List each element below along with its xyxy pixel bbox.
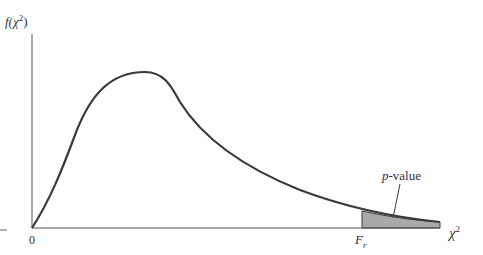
p-value-shaded-region — [362, 211, 440, 228]
p-value-label: p-value — [382, 168, 421, 184]
x-axis-label: χ2 — [449, 224, 460, 242]
y-label-f: f( — [5, 14, 13, 29]
critical-F: F — [355, 232, 363, 247]
x-label-sup: 2 — [456, 224, 461, 234]
y-axis-label: f(χ2) — [5, 13, 28, 30]
origin-label: 0 — [29, 233, 35, 248]
critical-sub: r — [363, 240, 367, 250]
critical-value-label: Fr — [355, 232, 366, 250]
p-value-pointer-line — [393, 184, 400, 218]
chi-square-plot — [0, 0, 483, 255]
x-label-chi: χ — [449, 225, 456, 241]
y-label-close: ) — [23, 14, 27, 29]
density-curve — [32, 72, 440, 228]
p-value-rest: -value — [389, 168, 421, 183]
